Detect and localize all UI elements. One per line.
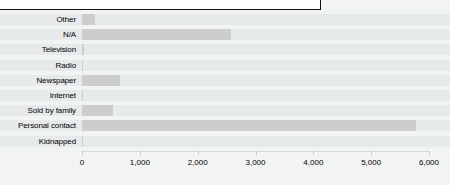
chart-row: Sold by family — [0, 105, 450, 116]
tick-label: 1,000 — [130, 158, 150, 167]
category-label: Other — [56, 14, 76, 25]
bar-track — [82, 60, 429, 71]
bar — [82, 136, 83, 147]
bar-track — [82, 14, 429, 25]
tick-label: 3,000 — [245, 158, 265, 167]
tick-label: 0 — [80, 158, 84, 167]
tick-mark — [140, 151, 141, 155]
chart-page: OtherN/ATelevisionRadioNewspaperInternet… — [0, 0, 450, 185]
chart-row: Internet — [0, 90, 450, 101]
x-axis: 01,0002,0003,0004,0005,0006,000 — [0, 151, 450, 185]
bar-track — [82, 90, 429, 101]
tick-mark — [313, 151, 314, 155]
tick-mark — [429, 151, 430, 155]
chart-row: Other — [0, 14, 450, 25]
bar — [82, 120, 416, 131]
chart-row: Radio — [0, 60, 450, 71]
chart-row: N/A — [0, 29, 450, 40]
bar — [82, 44, 84, 55]
category-label: Personal contact — [18, 120, 76, 131]
tick-mark — [198, 151, 199, 155]
bar-track — [82, 44, 429, 55]
category-label: Radio — [56, 60, 76, 71]
bar-track — [82, 120, 429, 131]
chart-row: Personal contact — [0, 120, 450, 131]
bar — [82, 90, 83, 101]
bar — [82, 60, 83, 71]
title-box — [0, 0, 321, 10]
bar-track — [82, 29, 429, 40]
bar — [82, 105, 113, 116]
bar-track — [82, 75, 429, 86]
tick-label: 4,000 — [303, 158, 323, 167]
category-label: Kidnapped — [39, 136, 76, 147]
bar — [82, 29, 231, 40]
chart-row: Kidnapped — [0, 136, 450, 147]
bar — [82, 14, 95, 25]
category-label: Television — [42, 44, 76, 55]
bar-track — [82, 105, 429, 116]
bar-track — [82, 136, 429, 147]
chart-row: Newspaper — [0, 75, 450, 86]
category-label: N/A — [63, 29, 76, 40]
tick-mark — [371, 151, 372, 155]
tick-mark — [256, 151, 257, 155]
category-label: Internet — [50, 90, 76, 101]
tick-label: 2,000 — [188, 158, 208, 167]
tick-label: 5,000 — [361, 158, 381, 167]
category-label: Sold by family — [28, 105, 76, 116]
category-label: Newspaper — [36, 75, 76, 86]
tick-label: 6,000 — [419, 158, 439, 167]
tick-mark — [82, 151, 83, 155]
chart-row: Television — [0, 44, 450, 55]
bar — [82, 75, 120, 86]
